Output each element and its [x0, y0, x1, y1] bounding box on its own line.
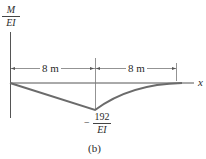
- moment-curve: [10, 83, 182, 110]
- diagram-graphics: [0, 0, 206, 159]
- arrowhead-icon: [90, 67, 94, 70]
- arrowhead-icon: [172, 67, 176, 70]
- dimension-label-left: 8 m: [40, 63, 61, 74]
- y-axis-numerator: M: [2, 5, 20, 15]
- dimension-label-right: 8 m: [126, 63, 147, 74]
- y-axis-label: M EI: [2, 5, 20, 28]
- peak-value-label: 192 EI: [93, 112, 111, 135]
- arrowhead-icon: [11, 67, 15, 70]
- peak-numerator: 192: [93, 112, 111, 122]
- moment-diagram: M EI x 8 m 8 m − 192 EI (b): [0, 0, 206, 159]
- peak-sign: −: [84, 117, 90, 128]
- x-axis-label: x: [198, 76, 203, 88]
- figure-caption: (b): [88, 142, 101, 154]
- arrowhead-icon: [96, 67, 100, 70]
- y-axis-denominator: EI: [2, 18, 20, 28]
- peak-denominator: EI: [93, 125, 111, 135]
